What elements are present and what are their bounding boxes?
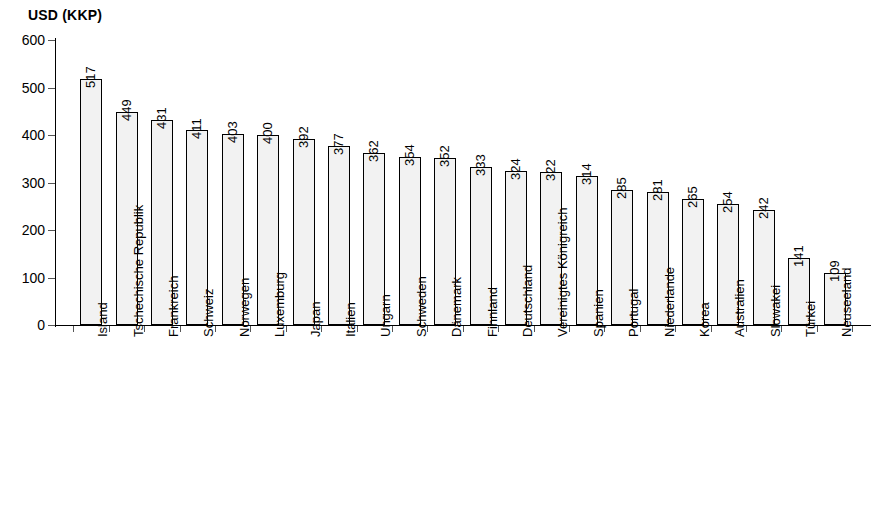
bar-value-label: 322 — [544, 159, 557, 181]
bar-value-label: 281 — [651, 179, 664, 201]
category-label: Luxemburg — [273, 272, 286, 337]
x-axis-tick — [73, 326, 74, 332]
category-label: Schweden — [415, 276, 428, 337]
y-axis-tick — [48, 135, 55, 136]
bar-value-label: 392 — [297, 126, 310, 148]
category-label: Slowakei — [769, 285, 782, 337]
y-axis-tick-label: 300 — [5, 176, 45, 190]
y-axis-tick — [48, 183, 55, 184]
category-label: Ungarn — [379, 294, 392, 337]
category-label: Island — [96, 302, 109, 337]
bar-value-label: 449 — [120, 99, 133, 121]
category-label: Dänemark — [450, 277, 463, 337]
bar-value-label: 411 — [190, 118, 203, 139]
category-label: Schweiz — [202, 289, 215, 337]
category-label: Niederlande — [663, 267, 676, 337]
y-axis-tick-label: 100 — [5, 271, 45, 285]
category-label: Neuseeland — [840, 268, 853, 337]
category-label: Portugal — [627, 289, 640, 337]
category-label: Spanien — [592, 289, 605, 337]
bar-value-label: 242 — [757, 197, 770, 219]
y-axis-tick — [48, 40, 55, 41]
bar-value-label: 354 — [403, 144, 416, 166]
bar-value-label: 141 — [792, 245, 805, 267]
category-label: Japan — [309, 302, 322, 337]
bar-value-label: 265 — [686, 186, 699, 208]
y-axis-tick-label: 500 — [5, 81, 45, 95]
category-label: Australien — [733, 279, 746, 337]
bar-value-label: 254 — [721, 192, 734, 214]
bar-value-label: 377 — [332, 133, 345, 155]
y-axis-tick — [48, 230, 55, 231]
category-label: Vereinigtes Königreich — [556, 208, 569, 337]
category-label: Italien — [344, 302, 357, 337]
chart-title: USD (KKP) — [28, 7, 102, 23]
bar-value-label: 400 — [261, 122, 274, 144]
y-axis-tick-label: 600 — [5, 33, 45, 47]
category-label: Norwegen — [238, 278, 251, 337]
y-axis-tick-label: 400 — [5, 128, 45, 142]
bar-value-label: 285 — [615, 177, 628, 199]
bar-chart: USD (KKP) 0100200300400500600 5174494314… — [0, 0, 881, 511]
category-label: Deutschland — [521, 265, 534, 337]
bar-value-label: 517 — [84, 67, 97, 89]
category-label: Korea — [698, 302, 711, 337]
bar-value-label: 362 — [367, 140, 380, 162]
bar-value-label: 333 — [474, 154, 487, 176]
y-axis-tick-label: 200 — [5, 223, 45, 237]
category-label: Türkei — [804, 301, 817, 337]
category-label: Tschechische Republik — [132, 205, 145, 337]
category-label: Finnland — [486, 287, 499, 337]
bar — [80, 79, 102, 325]
bar-value-label: 324 — [509, 158, 522, 180]
y-axis-tick — [48, 325, 55, 326]
bar — [293, 139, 315, 325]
bar-value-label: 403 — [226, 121, 239, 143]
y-axis-tick — [48, 88, 55, 89]
bar-value-label: 314 — [580, 163, 593, 185]
y-axis-line — [55, 38, 56, 327]
bar-value-label: 431 — [155, 108, 168, 130]
bar-value-label: 352 — [438, 145, 451, 167]
category-label: Frankreich — [167, 276, 180, 337]
y-axis-tick — [48, 278, 55, 279]
y-axis-tick-label: 0 — [5, 318, 45, 332]
bar — [328, 146, 350, 325]
